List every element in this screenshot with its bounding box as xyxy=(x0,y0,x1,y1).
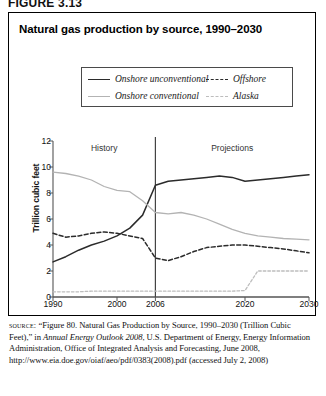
y-tick-label: 4 xyxy=(31,240,51,250)
legend-label: Offshore xyxy=(233,74,266,84)
source-italic-1: Annual Energy Outlook 2008 xyxy=(43,332,142,342)
x-tick-label: 2000 xyxy=(108,299,127,309)
figure-box: Natural gas production by source, 1990–2… xyxy=(8,12,316,316)
y-axis-ticks: 024681012 xyxy=(31,109,51,315)
legend-swatch-icon xyxy=(206,75,228,83)
y-tick-label: 2 xyxy=(31,266,51,276)
legend-label: Alaska xyxy=(233,91,259,101)
y-tick-label: 6 xyxy=(31,214,51,224)
y-tick-label: 10 xyxy=(31,162,51,172)
legend-item-onshore-conventional: Onshore conventional xyxy=(88,91,206,101)
x-tick-label: 2006 xyxy=(146,299,165,309)
y-tick-label: 8 xyxy=(31,188,51,198)
legend-label: Onshore conventional xyxy=(115,91,199,101)
x-tick-label: 2030 xyxy=(300,299,319,309)
legend-swatch-icon xyxy=(88,75,110,83)
y-tick-label: 12 xyxy=(31,136,51,146)
figure-title: Natural gas production by source, 1990–2… xyxy=(19,23,262,35)
figure-number: FIGURE 3.13 xyxy=(8,0,82,10)
legend-label: Onshore unconventional xyxy=(115,74,208,84)
projections-label: Projections xyxy=(211,143,253,153)
legend-item-offshore: Offshore xyxy=(206,74,300,84)
chart-plot-area: Trillion cubic feet 024681012 1990200020… xyxy=(9,109,315,315)
figure-page: FIGURE 3.13 Natural gas production by so… xyxy=(0,0,326,396)
legend-swatch-icon xyxy=(88,92,110,100)
history-label: History xyxy=(91,143,117,153)
x-tick-label: 2020 xyxy=(236,299,255,309)
source-note: source: “Figure 80. Natural Gas Producti… xyxy=(9,320,313,366)
source-prefix: source: xyxy=(9,321,36,330)
x-tick-label: 1990 xyxy=(44,299,63,309)
x-axis-ticks: 19902000200620202030 xyxy=(9,297,315,315)
legend-item-alaska: Alaska xyxy=(206,91,300,101)
chart-legend: Onshore unconventional Offshore Onshore … xyxy=(81,67,293,107)
legend-swatch-icon xyxy=(206,92,228,100)
chart-svg xyxy=(9,109,315,315)
legend-item-onshore-unconventional: Onshore unconventional xyxy=(88,74,206,84)
